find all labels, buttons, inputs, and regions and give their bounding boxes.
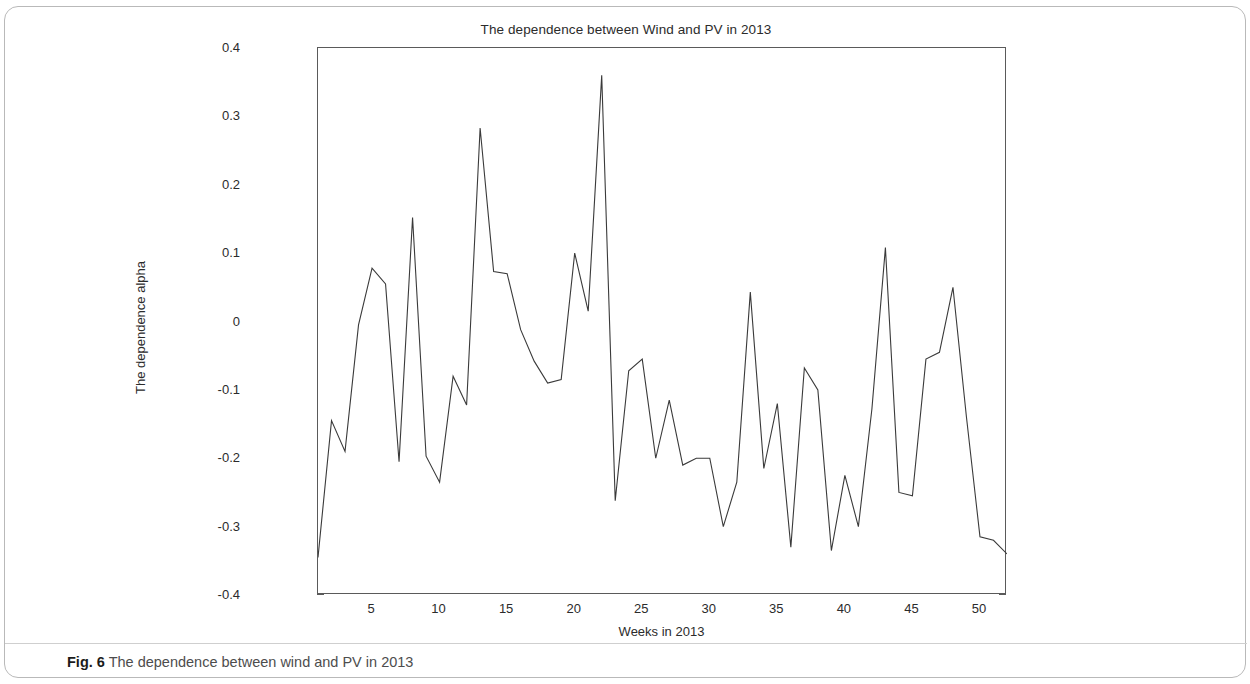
y-tick-label: 0.3 bbox=[160, 108, 240, 123]
caption-label: Fig. 6 bbox=[67, 654, 105, 670]
x-axis-label: Weeks in 2013 bbox=[317, 624, 1006, 639]
y-tick-label: -0.1 bbox=[160, 381, 240, 396]
figure-card: The dependence between Wind and PV in 20… bbox=[4, 6, 1246, 678]
y-tick-label: -0.3 bbox=[160, 518, 240, 533]
figure-caption: Fig. 6 The dependence between wind and P… bbox=[5, 643, 1247, 679]
x-tick-label: 15 bbox=[476, 601, 536, 616]
y-tick-label: -0.4 bbox=[160, 587, 240, 602]
x-tick-label: 35 bbox=[746, 601, 806, 616]
y-axis-label: The dependence alpha bbox=[133, 178, 148, 478]
x-tick-label: 25 bbox=[611, 601, 671, 616]
x-tick-label: 10 bbox=[409, 601, 469, 616]
x-tick-label: 50 bbox=[949, 601, 1009, 616]
caption-text-row: Fig. 6 The dependence between wind and P… bbox=[67, 654, 413, 670]
y-tick-label: 0.1 bbox=[160, 245, 240, 260]
x-tick-label: 40 bbox=[814, 601, 874, 616]
y-tick-label: -0.2 bbox=[160, 450, 240, 465]
y-tick-label: 0.4 bbox=[160, 40, 240, 55]
y-tick-label: 0.2 bbox=[160, 176, 240, 191]
plot-frame bbox=[317, 47, 1006, 594]
x-tick-label: 30 bbox=[679, 601, 739, 616]
x-tick-label: 20 bbox=[544, 601, 604, 616]
y-tick-label: 0 bbox=[160, 313, 240, 328]
chart-area: The dependence between Wind and PV in 20… bbox=[5, 7, 1247, 643]
x-tick-label: 45 bbox=[881, 601, 941, 616]
data-line-series bbox=[318, 48, 1007, 595]
x-tick-label: 5 bbox=[341, 601, 401, 616]
chart-title: The dependence between Wind and PV in 20… bbox=[5, 22, 1247, 37]
caption-description: The dependence between wind and PV in 20… bbox=[109, 654, 414, 670]
